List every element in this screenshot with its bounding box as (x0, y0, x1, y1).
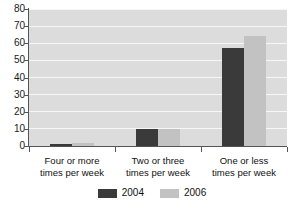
x-tick-mark (29, 147, 30, 152)
y-tick-label: 50 (3, 55, 25, 65)
y-tick-label: 80 (3, 4, 25, 14)
x-axis-line (28, 146, 287, 147)
chart-legend: 20042006 (0, 188, 304, 198)
x-category-label-line: Two or three (115, 155, 201, 167)
y-tick-label: 40 (3, 73, 25, 83)
x-tick-mark (201, 147, 202, 152)
legend-label: 2004 (122, 188, 144, 198)
y-axis-line (28, 8, 29, 147)
x-category-label: Four or moretimes per week (29, 155, 115, 178)
y-tick-mark (24, 43, 28, 44)
y-tick-mark (24, 129, 28, 130)
plot-area (29, 9, 287, 146)
x-category-label: One or lesstimes per week (201, 155, 287, 178)
legend-swatch-icon (160, 189, 179, 198)
bar-2004-3 (222, 48, 244, 146)
legend-label: 2006 (184, 188, 206, 198)
x-category-label-line: times per week (29, 167, 115, 179)
x-category-label: Two or threetimes per week (115, 155, 201, 178)
y-tick-mark (24, 112, 28, 113)
bar-2006-2 (158, 129, 180, 146)
legend-entry-2004: 2004 (98, 188, 144, 198)
bar-chart: 01020304050607080 20042006 Four or moret… (0, 0, 304, 208)
y-tick-label: 60 (3, 38, 25, 48)
y-axis: 01020304050607080 (0, 0, 25, 208)
y-tick-mark (24, 78, 28, 79)
legend-swatch-icon (98, 189, 117, 198)
x-category-label-line: times per week (115, 167, 201, 179)
y-tick-mark (24, 26, 28, 27)
bar-2004-2 (136, 129, 158, 146)
y-tick-label: 70 (3, 21, 25, 31)
y-tick-label: 30 (3, 90, 25, 100)
bar-2006-3 (244, 36, 266, 146)
x-category-label-line: times per week (201, 167, 287, 179)
y-tick-mark (24, 146, 28, 147)
y-tick-label: 0 (3, 141, 25, 151)
x-category-label-line: One or less (201, 155, 287, 167)
y-tick-mark (24, 95, 28, 96)
y-tick-mark (24, 60, 28, 61)
y-tick-mark (24, 9, 28, 10)
y-tick-label: 10 (3, 124, 25, 134)
gridline (29, 26, 287, 27)
x-tick-mark (287, 147, 288, 152)
y-tick-label: 20 (3, 107, 25, 117)
gridline (29, 9, 287, 10)
x-tick-mark (115, 147, 116, 152)
legend-entry-2006: 2006 (160, 188, 206, 198)
x-category-label-line: Four or more (29, 155, 115, 167)
